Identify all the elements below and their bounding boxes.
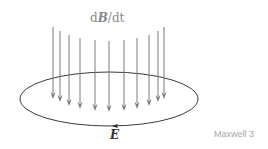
dbdt-prefix: d (90, 11, 98, 25)
down-arrow-icon (67, 99, 72, 106)
e-field-label: E (110, 128, 119, 142)
down-arrow-icon (135, 102, 140, 109)
down-arrow-icon (51, 92, 56, 99)
down-arrow-icon (93, 104, 98, 111)
dbdt-suffix: /dt (108, 11, 125, 25)
maxwell-diagram: dB/dt E Maxwell 3 (0, 0, 268, 149)
dbdt-variable: B (98, 11, 108, 25)
down-arrow-icon (107, 105, 112, 112)
induction-diagram-svg (0, 0, 268, 149)
magnetic-field-arrows (51, 27, 167, 112)
down-arrow-icon (58, 95, 63, 102)
slide-caption: Maxwell 3 (214, 129, 254, 139)
down-arrow-icon (147, 99, 152, 106)
down-arrow-icon (156, 95, 161, 102)
down-arrow-icon (78, 102, 83, 109)
down-arrow-icon (122, 104, 127, 111)
dbdt-label: dB/dt (90, 11, 124, 25)
down-arrow-icon (162, 92, 167, 99)
